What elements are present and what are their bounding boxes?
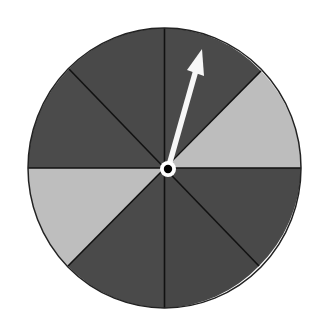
spinner-hub bbox=[160, 161, 176, 177]
spinner-diagram: Eight-sector spinner with an arrow point… bbox=[0, 0, 331, 312]
spinner-svg bbox=[0, 0, 331, 312]
